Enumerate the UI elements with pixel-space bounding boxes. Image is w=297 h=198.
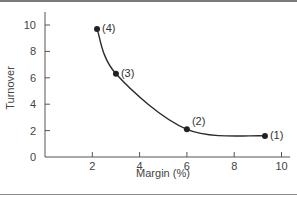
y-ticks: 246810 <box>24 19 50 137</box>
data-point <box>262 133 268 139</box>
x-axis-label: Margin (%) <box>136 167 190 179</box>
x-tick-label: 2 <box>89 160 95 172</box>
bottom-border <box>0 194 297 195</box>
y-tick-label: 8 <box>30 45 36 57</box>
data-point-label: (2) <box>192 115 205 127</box>
y-tick-label: 10 <box>24 19 36 31</box>
data-point-label: (1) <box>270 129 283 141</box>
data-point <box>113 71 119 77</box>
x-tick-label: 10 <box>275 160 287 172</box>
y-tick-label: 4 <box>30 98 36 110</box>
data-point-label: (3) <box>121 67 134 79</box>
chart: 246810 246810 0 Margin (%) Turnover (4)(… <box>0 0 297 198</box>
y-axis-label: Turnover <box>4 66 16 110</box>
y-tick-label: 2 <box>30 125 36 137</box>
y-tick-label: 6 <box>30 72 36 84</box>
origin-label: 0 <box>30 151 36 163</box>
x-tick-label: 8 <box>231 160 237 172</box>
data-curve <box>97 29 265 136</box>
data-point <box>184 126 190 132</box>
data-point <box>94 26 100 32</box>
data-point-label: (4) <box>102 22 115 34</box>
